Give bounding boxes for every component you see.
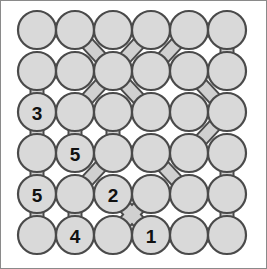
node-r2c5[interactable] (170, 52, 208, 90)
node-r2c2[interactable] (56, 52, 94, 90)
node-label-r5c3: 2 (108, 185, 119, 206)
node-r2c6[interactable] (208, 52, 246, 90)
node-label-r3c1: 3 (32, 103, 43, 124)
node-r4c4[interactable] (132, 134, 170, 172)
node-r3c5[interactable] (170, 93, 208, 131)
node-r2c4[interactable] (132, 52, 170, 90)
node-r4c1[interactable] (18, 134, 56, 172)
node-r4c5[interactable] (170, 134, 208, 172)
node-r5c2[interactable] (56, 175, 94, 213)
node-label-r6c2: 4 (70, 226, 81, 247)
node-r1c3[interactable] (94, 11, 132, 49)
node-r6c1[interactable] (18, 216, 56, 254)
node-r6c3[interactable] (94, 216, 132, 254)
node-r3c2[interactable] (56, 93, 94, 131)
puzzle-canvas: 355241 (1, 1, 267, 269)
node-r1c6[interactable] (208, 11, 246, 49)
node-r1c4[interactable] (132, 11, 170, 49)
node-r1c1[interactable] (18, 11, 56, 49)
node-r5c5[interactable] (170, 175, 208, 213)
node-label-r5c1: 5 (32, 185, 43, 206)
node-r1c2[interactable] (56, 11, 94, 49)
node-r2c1[interactable] (18, 52, 56, 90)
node-r4c3[interactable] (94, 134, 132, 172)
node-r6c5[interactable] (170, 216, 208, 254)
node-r2c3[interactable] (94, 52, 132, 90)
node-label-r4c2: 5 (70, 144, 81, 165)
node-r5c4[interactable] (132, 175, 170, 213)
node-label-r6c4: 1 (146, 226, 157, 247)
node-r3c3[interactable] (94, 93, 132, 131)
node-r3c4[interactable] (132, 93, 170, 131)
node-r3c6[interactable] (208, 93, 246, 131)
puzzle-board: 355241 (0, 0, 267, 269)
node-r4c6[interactable] (208, 134, 246, 172)
node-r5c6[interactable] (208, 175, 246, 213)
node-r6c6[interactable] (208, 216, 246, 254)
node-r1c5[interactable] (170, 11, 208, 49)
